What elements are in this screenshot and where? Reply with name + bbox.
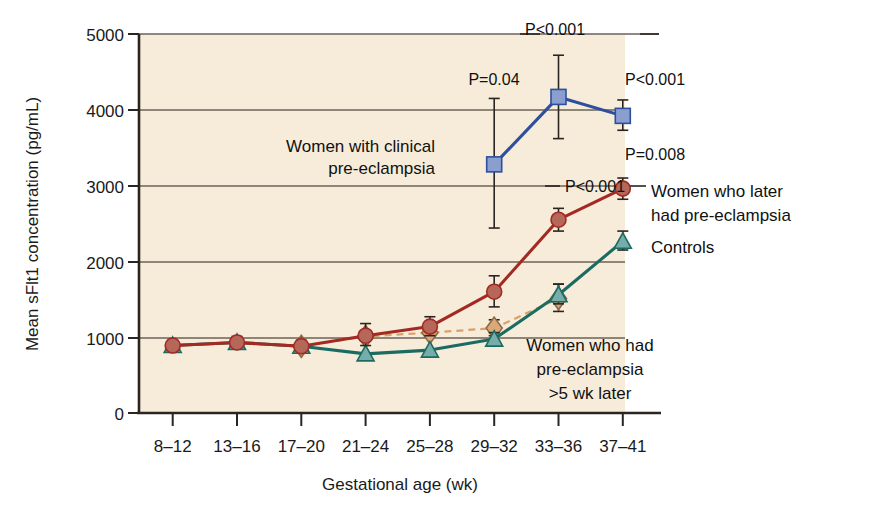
x-tick-label-4: 25–28 — [406, 437, 453, 456]
x-tick-label-5: 29–32 — [471, 437, 518, 456]
p-value-29-32-blue: P=0.04 — [468, 71, 519, 88]
x-axis-tick-labels: 8–1213–1617–2021–2425–2829–3233–3637–41 — [154, 437, 647, 456]
x-axis-title: Gestational age (wk) — [322, 475, 478, 494]
series-label-clinical-line2: pre-eclampsia — [328, 159, 435, 178]
chart-figure: 5000 4000 3000 2000 1000 0 Mean sFlt1 co… — [0, 0, 872, 507]
series-label-controls-line1: Controls — [651, 238, 714, 257]
y-tick-label-4000: 4000 — [86, 102, 124, 121]
series-label-later-line1: Women who later — [651, 182, 783, 201]
series-label-clinical-line1: Women with clinical — [286, 137, 435, 156]
x-axis-ticks — [173, 413, 623, 426]
x-tick-label-1: 13–16 — [213, 437, 260, 456]
data-point-circle — [358, 328, 373, 343]
y-tick-label-1000: 1000 — [86, 330, 124, 349]
data-point-circle — [230, 335, 245, 350]
series-label-5wk-line2: pre-eclampsia — [537, 360, 644, 379]
y-axis-ticks — [128, 34, 139, 413]
p-value-33-36-blue: P<0.001 — [525, 21, 585, 38]
x-tick-label-0: 8–12 — [154, 437, 192, 456]
x-tick-label-6: 33–36 — [535, 437, 582, 456]
y-tick-label-5000: 5000 — [86, 26, 124, 45]
series-label-5wk-line1: Women who had — [526, 336, 653, 355]
y-axis-tick-labels: 5000 4000 3000 2000 1000 0 — [86, 26, 124, 424]
y-tick-label-2000: 2000 — [86, 254, 124, 273]
p-value-37-41-blue: P<0.001 — [625, 71, 685, 88]
data-point-square — [615, 108, 630, 123]
data-point-circle — [487, 284, 502, 299]
data-point-square — [487, 157, 502, 172]
data-point-circle — [165, 338, 180, 353]
data-point-square — [551, 89, 566, 104]
x-tick-label-3: 21–24 — [342, 437, 389, 456]
p-value-37-41-red: P=0.008 — [625, 146, 685, 163]
series-label-5wk-line3: >5 wk later — [549, 384, 632, 403]
y-axis-title: Mean sFlt1 concentration (pg/mL) — [23, 97, 42, 351]
p-value-33-36-red: P<0.001 — [565, 178, 625, 195]
data-point-circle — [294, 339, 309, 354]
y-tick-label-3000: 3000 — [86, 178, 124, 197]
x-tick-label-2: 17–20 — [278, 437, 325, 456]
data-point-circle — [551, 212, 566, 227]
y-tick-label-0: 0 — [115, 405, 124, 424]
series-label-controls: Controls — [651, 238, 714, 257]
series-label-later-line2: had pre-eclampsia — [651, 206, 791, 225]
data-point-circle — [422, 319, 437, 334]
series-label-later: Women who later had pre-eclampsia — [651, 182, 791, 225]
chart-svg: 5000 4000 3000 2000 1000 0 Mean sFlt1 co… — [0, 0, 872, 507]
x-tick-label-7: 37–41 — [599, 437, 646, 456]
